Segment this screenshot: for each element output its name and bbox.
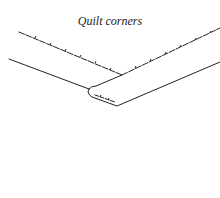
fold-stitch-line xyxy=(95,95,115,102)
lower-edge-left xyxy=(9,59,89,89)
quilt-corner-illustration xyxy=(0,0,220,198)
stitch-ticks xyxy=(35,31,211,100)
fold-top-edge xyxy=(89,75,122,89)
